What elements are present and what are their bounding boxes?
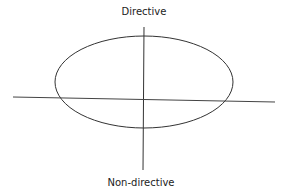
vertical-axis [143, 27, 144, 170]
label-non-directive: Non-directive [108, 177, 175, 188]
diagram-graphic [0, 0, 281, 196]
